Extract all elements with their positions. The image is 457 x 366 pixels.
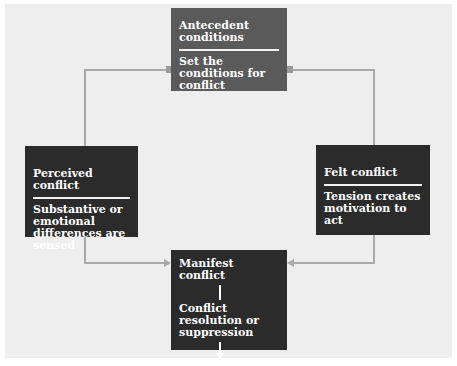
connector-bottom-left-horizontal xyxy=(84,262,164,264)
divider xyxy=(179,49,279,51)
node-description: Substantive or emotional differences are… xyxy=(33,204,130,252)
node-title: Perceived conflict xyxy=(33,168,130,192)
node-title: Felt conflict xyxy=(324,167,422,179)
arrowhead-into-manifest-right xyxy=(287,259,294,267)
connector-right-vertical-lower xyxy=(373,235,375,263)
step-conflict-resolution: Conflict resolution or suppression xyxy=(179,303,279,339)
connector-bottom-right-horizontal xyxy=(294,262,375,264)
connector-left-vertical-upper xyxy=(84,69,86,146)
node-perceived-conflict: Perceived conflict Substantive or emotio… xyxy=(25,146,138,237)
node-felt-conflict: Felt conflict Tension creates motivation… xyxy=(316,145,430,235)
node-description: Set the conditions for conflict xyxy=(179,56,279,92)
step-connector-line xyxy=(219,285,221,300)
down-arrow-icon xyxy=(219,342,221,354)
connector-top-left-horizontal xyxy=(84,69,171,71)
node-description: Tension creates motivation to act xyxy=(324,191,422,227)
node-title: Antecedent conditions xyxy=(179,20,279,44)
divider xyxy=(324,184,422,186)
node-antecedent-conditions: Antecedent conditions Set the conditions… xyxy=(171,8,287,91)
connector-joint-right xyxy=(286,66,293,73)
arrowhead-into-manifest-left xyxy=(164,259,171,267)
divider xyxy=(33,197,130,199)
connector-top-right-horizontal xyxy=(287,69,375,71)
step-manifest-conflict: Manifest conflict xyxy=(179,258,279,282)
step-conflict-aftermath: Conflict aftermath xyxy=(179,362,279,366)
connector-right-vertical-upper xyxy=(373,69,375,145)
node-manifest-conflict: Manifest conflict Conflict resolution or… xyxy=(171,250,287,350)
